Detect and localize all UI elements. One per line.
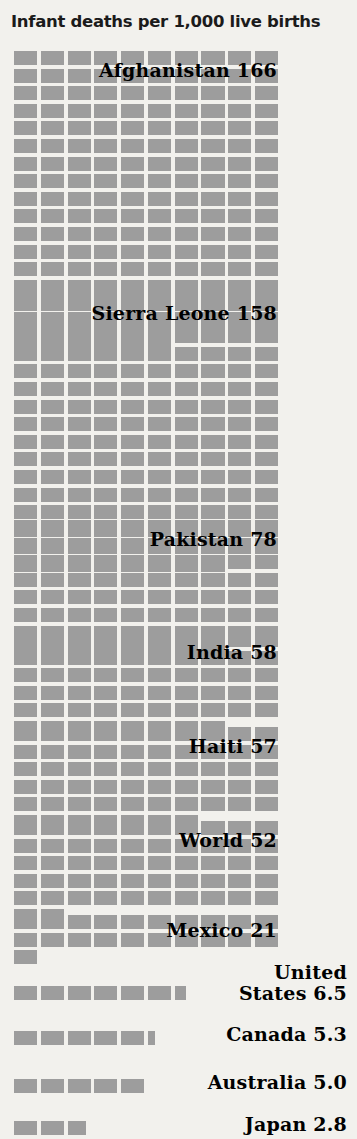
unit-grid-row <box>14 452 278 466</box>
unit-cell <box>121 488 144 502</box>
unit-cell <box>94 856 117 870</box>
unit-cell <box>148 891 171 905</box>
unit-cell <box>201 470 224 484</box>
unit-cell <box>175 121 198 135</box>
unit-cell <box>175 280 198 294</box>
unit-cell <box>14 382 37 396</box>
unit-grid-row <box>14 121 278 135</box>
unit-cell <box>41 452 64 466</box>
unit-cell <box>148 417 171 431</box>
unit-cell <box>94 347 117 361</box>
unit-cell <box>175 856 198 870</box>
unit-cell <box>175 590 198 604</box>
unit-cell <box>175 382 198 396</box>
unit-cell <box>148 121 171 135</box>
unit-cell <box>228 452 251 466</box>
unit-cell <box>94 505 117 519</box>
unit-cell <box>228 555 251 569</box>
unit-cell <box>14 608 37 622</box>
unit-cell <box>121 139 144 153</box>
unit-cell <box>175 262 198 276</box>
unit-cell <box>255 174 278 188</box>
unit-grid-row <box>14 157 278 171</box>
unit-cell <box>14 856 37 870</box>
unit-cell <box>14 192 37 206</box>
unit-cell <box>121 382 144 396</box>
unit-cell <box>41 104 64 118</box>
unit-cell <box>228 86 251 100</box>
unit-cell <box>68 780 91 794</box>
unit-cell <box>228 874 251 888</box>
unit-cell <box>201 245 224 259</box>
unit-cell <box>41 280 64 294</box>
unit-cell <box>68 762 91 776</box>
unit-cell <box>175 139 198 153</box>
unit-cell <box>255 227 278 241</box>
unit-cell <box>201 104 224 118</box>
unit-cell <box>255 104 278 118</box>
unit-cell <box>121 797 144 811</box>
unit-cell <box>201 139 224 153</box>
unit-cell <box>255 874 278 888</box>
unit-cell <box>68 400 91 414</box>
unit-cell <box>148 262 171 276</box>
unit-cell <box>41 262 64 276</box>
unit-cell <box>14 174 37 188</box>
unit-cell <box>121 470 144 484</box>
unit-cell <box>255 157 278 171</box>
unit-cell <box>121 245 144 259</box>
unit-cell <box>121 227 144 241</box>
unit-cell <box>41 762 64 776</box>
unit-cell <box>94 780 117 794</box>
unit-cell <box>148 86 171 100</box>
unit-cell <box>94 555 117 569</box>
unit-cell <box>255 364 278 378</box>
unit-cell <box>201 262 224 276</box>
unit-cell <box>94 488 117 502</box>
unit-cell <box>121 590 144 604</box>
unit-cell <box>148 703 171 717</box>
unit-grid-row <box>14 590 278 604</box>
unit-cell <box>201 227 224 241</box>
unit-cell <box>41 668 64 682</box>
unit-cell <box>255 245 278 259</box>
unit-cell <box>41 573 64 587</box>
unit-grid-row <box>14 573 278 587</box>
unit-cell <box>255 435 278 449</box>
unit-cell <box>255 573 278 587</box>
unit-cell <box>255 280 278 294</box>
unit-cell <box>228 435 251 449</box>
unit-cell <box>201 874 224 888</box>
unit-cell <box>148 856 171 870</box>
unit-grid-row <box>14 86 278 100</box>
unit-cell <box>121 104 144 118</box>
unit-cell <box>94 417 117 431</box>
unit-cell <box>41 488 64 502</box>
unit-cell <box>121 121 144 135</box>
unit-cell <box>94 382 117 396</box>
unit-cell <box>121 364 144 378</box>
unit-cell <box>228 347 251 361</box>
unit-cell <box>68 590 91 604</box>
unit-cell <box>121 209 144 223</box>
unit-cell <box>68 209 91 223</box>
unit-cell <box>228 762 251 776</box>
unit-cell <box>175 157 198 171</box>
unit-cell <box>41 891 64 905</box>
unit-cell <box>14 555 37 569</box>
unit-grid-row <box>14 780 278 794</box>
unit-cell <box>121 174 144 188</box>
unit-cell <box>41 505 64 519</box>
unit-grid-row <box>14 262 278 276</box>
unit-grid-row <box>14 364 278 378</box>
unit-cell <box>14 280 37 294</box>
unit-cell <box>255 856 278 870</box>
unit-cell <box>68 121 91 135</box>
unit-cell <box>68 417 91 431</box>
unit-grid-row <box>14 891 278 905</box>
unit-cell <box>201 209 224 223</box>
unit-cell <box>41 121 64 135</box>
unit-cell <box>94 590 117 604</box>
unit-grid-row <box>14 703 278 717</box>
unit-cell <box>255 347 278 361</box>
